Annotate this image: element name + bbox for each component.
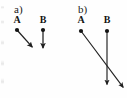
panel-b-point-label-B: B bbox=[104, 15, 111, 25]
panel-b-dot-A bbox=[79, 29, 83, 33]
panel-b-dot-B bbox=[105, 29, 109, 33]
panel-a-point-label-A: A bbox=[13, 15, 20, 25]
panel-b-arrow-A bbox=[81, 31, 123, 87]
panel-b-vector-B bbox=[105, 29, 109, 85]
panel-b-point-label-A: A bbox=[77, 15, 84, 25]
panel-a-dot-A bbox=[15, 28, 19, 32]
panel-a-vector-A bbox=[15, 28, 32, 47]
panel-a-arrow-A bbox=[17, 30, 32, 47]
vector-diagram-figure: a) A B b) A B bbox=[0, 0, 127, 98]
panel-b-vector-A bbox=[79, 29, 123, 87]
panel-a-vector-B bbox=[41, 28, 45, 48]
panel-a-point-label-B: B bbox=[40, 15, 47, 25]
panel-a-dot-B bbox=[41, 28, 45, 32]
